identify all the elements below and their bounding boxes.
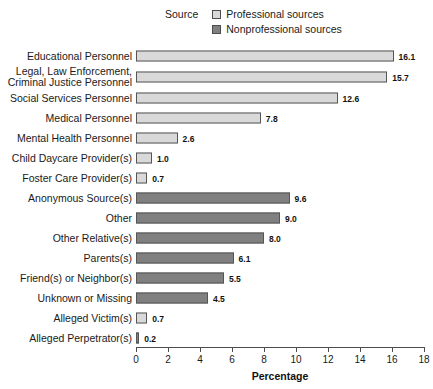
bar-value-label: 6.1 — [239, 253, 251, 263]
category-label: Anonymous Source(s) — [28, 193, 132, 204]
category-label: Medical Personnel — [46, 113, 132, 124]
chart-legend: Source Professional sources Nonprofessio… — [165, 8, 342, 36]
category-label: Foster Care Provider(s) — [22, 173, 132, 184]
bar-track: 4.5 — [136, 293, 431, 304]
legend-swatch-nonprofessional-icon — [212, 25, 221, 34]
bar-track: 9.0 — [136, 213, 431, 224]
bar-professional[interactable] — [136, 133, 178, 144]
bar-value-label: 0.7 — [152, 173, 164, 183]
bar-track: 9.6 — [136, 193, 431, 204]
bar-nonprofessional[interactable] — [136, 253, 234, 264]
bar-nonprofessional[interactable] — [136, 293, 208, 304]
category-label: Alleged Perpetrator(s) — [29, 333, 132, 344]
bar-nonprofessional[interactable] — [136, 193, 290, 204]
x-axis-tick — [424, 347, 425, 352]
x-axis-tick — [232, 347, 233, 352]
chart-row: Alleged Victim(s)0.7 — [0, 308, 433, 328]
bar-nonprofessional[interactable] — [136, 213, 280, 224]
chart-row: Alleged Perpetrator(s)0.2 — [0, 328, 433, 348]
category-label: Unknown or Missing — [37, 293, 132, 304]
bar-track: 5.5 — [136, 273, 431, 284]
x-axis-tick-label: 6 — [229, 354, 235, 365]
category-label: Other — [106, 213, 132, 224]
chart-row: Anonymous Source(s)9.6 — [0, 188, 433, 208]
legend-entries: Professional sources Nonprofessional sou… — [212, 8, 342, 36]
bar-value-label: 2.6 — [183, 133, 195, 143]
x-axis-tick — [328, 347, 329, 352]
bar-value-label: 7.8 — [266, 113, 278, 123]
bar-track: 7.8 — [136, 113, 431, 124]
bar-professional[interactable] — [136, 313, 147, 324]
bar-track: 16.1 — [136, 51, 431, 62]
bar-value-label: 4.5 — [213, 293, 225, 303]
bar-track: 1.0 — [136, 153, 431, 164]
bar-track: 15.7 — [136, 72, 431, 83]
x-axis-tick — [168, 347, 169, 352]
bar-professional[interactable] — [136, 93, 338, 104]
x-axis-tick — [136, 347, 137, 352]
bar-chart: Source Professional sources Nonprofessio… — [0, 0, 433, 389]
chart-row: Friend(s) or Neighbor(s)5.5 — [0, 268, 433, 288]
x-axis-tick-label: 12 — [322, 354, 333, 365]
bar-value-label: 9.6 — [295, 193, 307, 203]
legend-label-professional: Professional sources — [226, 8, 323, 21]
bar-value-label: 9.0 — [285, 213, 297, 223]
x-axis-title: Percentage — [136, 370, 424, 382]
bar-track: 6.1 — [136, 253, 431, 264]
category-label: Alleged Victim(s) — [53, 313, 132, 324]
chart-row: Social Services Personnel12.6 — [0, 88, 433, 108]
x-axis-tick — [360, 347, 361, 352]
bar-nonprofessional[interactable] — [136, 273, 224, 284]
x-axis-tick-label: 2 — [165, 354, 171, 365]
chart-row: Mental Health Personnel2.6 — [0, 128, 433, 148]
x-axis-tick-label: 10 — [290, 354, 301, 365]
bar-track: 12.6 — [136, 93, 431, 104]
bar-track: 0.7 — [136, 173, 431, 184]
chart-row: Other Relative(s)8.0 — [0, 228, 433, 248]
x-axis-tick — [392, 347, 393, 352]
category-label: Legal, Law Enforcement, Criminal Justice… — [2, 66, 132, 88]
legend-title: Source — [165, 8, 198, 21]
bar-value-label: 5.5 — [229, 273, 241, 283]
category-label: Educational Personnel — [27, 51, 132, 62]
legend-entry-nonprofessional[interactable]: Nonprofessional sources — [212, 23, 342, 36]
bar-professional[interactable] — [136, 173, 147, 184]
x-axis-tick-label: 14 — [354, 354, 365, 365]
x-axis-tick-label: 16 — [386, 354, 397, 365]
chart-row: Parents(s)6.1 — [0, 248, 433, 268]
category-label: Parents(s) — [84, 253, 132, 264]
x-axis: 024681012141618 — [136, 347, 424, 348]
bar-nonprofessional[interactable] — [136, 233, 264, 244]
category-label: Other Relative(s) — [53, 233, 132, 244]
plot-area: Educational Personnel16.1Legal, Law Enfo… — [0, 46, 433, 348]
bar-nonprofessional[interactable] — [136, 333, 139, 344]
chart-row: Child Daycare Provider(s)1.0 — [0, 148, 433, 168]
bar-professional[interactable] — [136, 153, 152, 164]
chart-row: Educational Personnel16.1 — [0, 46, 433, 66]
category-label: Friend(s) or Neighbor(s) — [20, 273, 132, 284]
bar-professional[interactable] — [136, 51, 394, 62]
bar-professional[interactable] — [136, 113, 261, 124]
x-axis-tick-label: 4 — [197, 354, 203, 365]
x-axis-tick — [200, 347, 201, 352]
bar-track: 8.0 — [136, 233, 431, 244]
bar-track: 0.2 — [136, 333, 431, 344]
bar-value-label: 0.2 — [144, 333, 156, 343]
chart-row: Foster Care Provider(s)0.7 — [0, 168, 433, 188]
bar-value-label: 12.6 — [343, 93, 360, 103]
x-axis-tick — [296, 347, 297, 352]
bar-value-label: 1.0 — [157, 153, 169, 163]
legend-entry-professional[interactable]: Professional sources — [212, 8, 342, 21]
category-label: Child Daycare Provider(s) — [12, 153, 132, 164]
x-axis-tick-label: 8 — [261, 354, 267, 365]
x-axis-tick — [264, 347, 265, 352]
bar-value-label: 0.7 — [152, 313, 164, 323]
chart-row: Unknown or Missing4.5 — [0, 288, 433, 308]
bar-professional[interactable] — [136, 72, 387, 83]
chart-row: Medical Personnel7.8 — [0, 108, 433, 128]
x-axis-tick-label: 0 — [133, 354, 139, 365]
legend-label-nonprofessional: Nonprofessional sources — [226, 23, 342, 36]
chart-row: Other9.0 — [0, 208, 433, 228]
bar-value-label: 8.0 — [269, 233, 281, 243]
chart-row: Legal, Law Enforcement, Criminal Justice… — [0, 66, 433, 88]
